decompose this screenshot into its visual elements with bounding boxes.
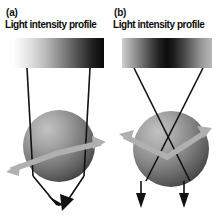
panel-a-caption: Light intensity profile [5,19,96,31]
panel-a: (a) Light intensity profile [0,0,109,224]
panel-b-letter: (b) [114,7,126,18]
panel-a-intensity-profile-bar [14,38,104,68]
panel-b: (b) Light intensity profile [108,0,217,224]
panel-b-intensity-profile-bar [122,38,212,68]
panel-a-letter: (a) [6,7,18,18]
panel-b-caption: Light intensity profile [113,19,204,31]
optics-figure: (a) Light intensity profile (b) Light in… [0,0,217,224]
